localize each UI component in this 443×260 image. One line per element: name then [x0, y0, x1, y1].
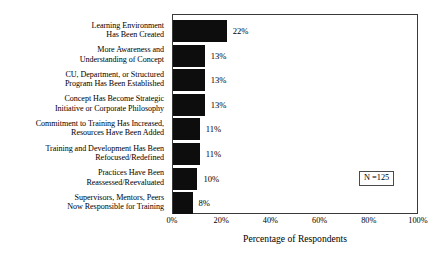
category-label: Commitment to Training Has Increased,Res…	[0, 119, 164, 138]
category-label-line: Practices Have Been	[0, 168, 164, 177]
bar-value-label: 13%	[211, 51, 227, 61]
bar-value-label: 13%	[211, 100, 227, 110]
bar-row: 13%	[173, 45, 417, 67]
bar[interactable]	[173, 94, 205, 116]
category-label: More Awareness andUnderstanding of Conce…	[0, 45, 164, 64]
bar-value-label: 8%	[199, 198, 210, 208]
bar[interactable]	[173, 168, 197, 190]
plot-area: 22%13%13%13%11%11%10%8% N =125	[172, 14, 418, 214]
category-label-line: Commitment to Training Has Increased,	[0, 119, 164, 128]
category-label-line: More Awareness and	[0, 45, 164, 54]
bar-row: 11%	[173, 118, 417, 140]
bar[interactable]	[173, 45, 205, 67]
x-tick-label: 60%	[312, 215, 327, 226]
bar-value-label: 10%	[203, 174, 219, 184]
category-axis-labels: Learning EnvironmentHas Been CreatedMore…	[0, 14, 168, 214]
bar-row: 22%	[173, 20, 417, 42]
category-label-line: Learning Environment	[0, 21, 164, 30]
x-axis-tick-labels: 0%20%40%60%80%100%	[172, 215, 418, 229]
category-label: Concept Has Become StrategicInitiative o…	[0, 94, 164, 113]
category-label: Learning EnvironmentHas Been Created	[0, 21, 164, 40]
x-tick-label: 80%	[361, 215, 376, 226]
bar[interactable]	[173, 143, 200, 165]
category-label: Practices Have BeenReassessed/Reevaluate…	[0, 168, 164, 187]
category-label-line: Training and Development Has Been	[0, 144, 164, 153]
category-label-line: Initiative or Corporate Philosophy	[0, 104, 164, 113]
category-label-line: CU, Department, or Structured	[0, 70, 164, 79]
category-label: CU, Department, or StructuredProgram Has…	[0, 70, 164, 89]
category-label-line: Reassessed/Reevaluated	[0, 178, 164, 187]
category-label-line: Understanding of Concept	[0, 55, 164, 64]
bar-row: 13%	[173, 69, 417, 91]
bar[interactable]	[173, 20, 227, 42]
bar-value-label: 13%	[211, 75, 227, 85]
x-tick-label: 20%	[214, 215, 229, 226]
bar-row: 13%	[173, 94, 417, 116]
category-label: Training and Development Has BeenRefocus…	[0, 144, 164, 163]
category-label-line: Program Has Been Established	[0, 79, 164, 88]
category-label-line: Resources Have Been Added	[0, 128, 164, 137]
category-label-line: Supervisors, Mentors, Peers	[0, 193, 164, 202]
bar-row: 8%	[173, 192, 417, 214]
category-label-line: Refocused/Redefined	[0, 153, 164, 162]
category-label-line: Has Been Created	[0, 30, 164, 39]
bar-value-label: 11%	[206, 149, 221, 159]
x-tick-label: 100%	[408, 215, 427, 226]
bar-value-label: 22%	[233, 26, 249, 36]
category-label-line: Now Responsible for Training	[0, 202, 164, 211]
x-tick-label: 40%	[263, 215, 278, 226]
bar[interactable]	[173, 69, 205, 91]
category-label: Supervisors, Mentors, PeersNow Responsib…	[0, 193, 164, 212]
bar-chart: Learning EnvironmentHas Been CreatedMore…	[0, 0, 443, 260]
x-tick-label: 0%	[166, 215, 177, 226]
sample-size-annotation: N =125	[359, 171, 394, 186]
bar[interactable]	[173, 192, 193, 214]
category-label-line: Concept Has Become Strategic	[0, 94, 164, 103]
bar-value-label: 11%	[206, 124, 221, 134]
bar-row: 11%	[173, 143, 417, 165]
x-axis-title: Percentage of Respondents	[172, 233, 418, 245]
bar[interactable]	[173, 118, 200, 140]
